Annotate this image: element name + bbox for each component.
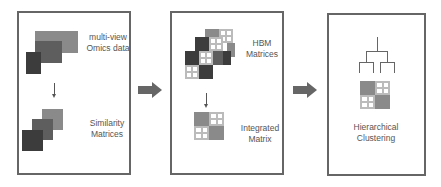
hbm-grid: [185, 65, 199, 79]
integrated-block-2: [209, 126, 224, 140]
clustering-label-line1: Hierarchical: [345, 122, 407, 133]
down-arrow-head-icon: [204, 104, 208, 108]
similarity-label-line2: Matrices: [83, 129, 131, 140]
cluster-block-1: [360, 81, 375, 95]
integrated-grid: [209, 112, 224, 126]
hierarchical-clustering-label: Hierarchical Clustering: [345, 122, 407, 144]
cluster-grid: [375, 81, 390, 95]
panel-omics-data: multi-view Omics data Similarity Matrice…: [17, 11, 131, 175]
integrated-matrix: [194, 112, 224, 140]
hbm-cell: [185, 51, 199, 65]
hbm-grid: [209, 37, 223, 51]
clustered-matrix: [360, 81, 390, 109]
hbm-cell: [223, 51, 231, 65]
integrated-label-line1: Integrated: [236, 123, 284, 134]
hbm-label-line2: Matrices: [240, 49, 284, 60]
similarity-matrix-dark: [22, 130, 43, 151]
clustering-label-line2: Clustering: [345, 133, 407, 144]
integrated-grid: [194, 126, 209, 140]
hbm-matrices-label: HBM Matrices: [240, 38, 284, 60]
omics-label-line2: Omics data: [85, 43, 131, 54]
hbm-grid: [199, 51, 213, 65]
similarity-label-line1: Similarity: [83, 118, 131, 129]
down-arrow-head-icon: [52, 94, 56, 98]
integrated-block-1: [194, 112, 209, 126]
hbm-cell: [195, 37, 209, 51]
panel-hbm: HBM Matrices Integrated Matrix: [170, 11, 284, 175]
panel-clustering: Hierarchical Clustering: [327, 13, 426, 176]
omics-layer-dark: [26, 52, 41, 74]
hbm-label-line1: HBM: [240, 38, 284, 49]
cluster-grid: [360, 95, 375, 109]
omics-data-label: multi-view Omics data: [85, 32, 131, 54]
cluster-block-2: [375, 95, 390, 109]
hbm-cell: [199, 65, 213, 79]
integrated-label-line2: Matrix: [236, 134, 284, 145]
hbm-cell: [205, 29, 219, 37]
integrated-matrix-label: Integrated Matrix: [236, 123, 284, 145]
similarity-matrices-label: Similarity Matrices: [83, 118, 131, 140]
hbm-cell: [213, 51, 223, 65]
omics-label-line1: multi-view: [85, 32, 131, 43]
